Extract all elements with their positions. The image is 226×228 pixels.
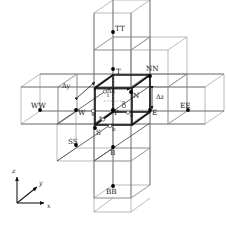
- stencil-diagram: TT T NN N WW W P E EE S SS B BB t n e w …: [0, 0, 226, 228]
- figure-canvas: TT T NN N WW W P E EE S SS B BB t n e w …: [0, 0, 226, 228]
- node-dot-NN: [148, 74, 152, 78]
- node-label-EE: EE: [180, 101, 191, 110]
- delta-y-arrow: [78, 82, 95, 97]
- face-label-w: w: [91, 111, 96, 117]
- node-label-SS: SS: [68, 137, 78, 146]
- node-label-WW: WW: [31, 101, 46, 110]
- face-label-s: s: [99, 114, 102, 120]
- cell-EE: [168, 74, 224, 124]
- axis-label-z: z: [11, 167, 16, 174]
- node-label-S: S: [96, 128, 101, 137]
- face-label-e: e: [130, 112, 133, 118]
- axis-label-y: y: [38, 179, 43, 187]
- axis-label-x: x: [47, 202, 51, 209]
- dimension-label-dz: Δz: [156, 93, 165, 101]
- node-dot-T: [111, 67, 115, 71]
- node-label-B: B: [110, 148, 115, 157]
- cell-BB: [94, 148, 150, 212]
- node-label-P: P: [114, 108, 119, 117]
- axis-triad: z y x: [11, 167, 51, 209]
- node-label-T: T: [116, 67, 121, 76]
- axis-y-line: [17, 187, 37, 203]
- face-label-b: b: [112, 126, 116, 132]
- dimension-label-dy: Δy: [62, 82, 71, 90]
- node-label-E: E: [152, 108, 157, 117]
- face-marker-s: [101, 118, 104, 121]
- node-label-BB: BB: [106, 187, 117, 196]
- node-label-TT: TT: [115, 24, 125, 33]
- face-label-n: n: [122, 99, 126, 105]
- node-label-N: N: [133, 91, 139, 100]
- dimension-label-dx: Δx: [107, 87, 116, 95]
- node-label-W: W: [78, 108, 86, 117]
- node-label-NN: NN: [146, 64, 159, 73]
